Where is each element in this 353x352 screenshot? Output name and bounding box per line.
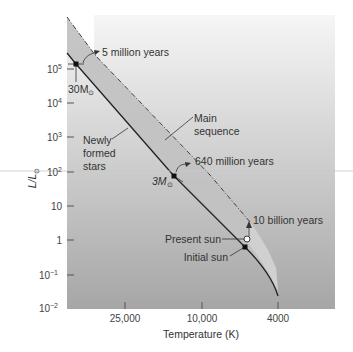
label-formed: formed [83, 147, 116, 159]
y-tick-10: 10 [51, 201, 63, 212]
x-tick-10000: 10,000 [187, 313, 218, 324]
y-tick-1e4: 104 [47, 97, 62, 109]
marker-3-msun [172, 174, 177, 179]
label-initial-sun: Initial sun [184, 251, 229, 263]
y-tick-1e5: 105 [47, 63, 62, 75]
y-tick-1: 1 [56, 235, 62, 246]
label-newly: Newly [83, 134, 112, 146]
marker-30-msun [74, 62, 79, 67]
y-tick-1e-2: 10−2 [39, 302, 58, 314]
label-5-million-years: 5 million years [102, 46, 169, 58]
marker-initial-sun [243, 245, 248, 250]
hr-diagram-chart: 105 104 103 102 10 1 10−1 10−2 L/L⊙ 25,0… [0, 0, 353, 352]
x-axis-title: Temperature (K) [163, 328, 239, 340]
label-sequence: sequence [194, 125, 240, 137]
x-tick-25000: 25,000 [110, 313, 141, 324]
y-tick-labels: 105 104 103 102 10 1 10−1 10−2 [39, 63, 63, 314]
label-stars: stars [83, 160, 106, 172]
label-10-billion-years: 10 billion years [253, 214, 323, 226]
x-tick-4000: 4000 [267, 313, 290, 324]
y-tick-1e3: 103 [47, 131, 62, 143]
y-tick-1e2: 102 [47, 166, 62, 178]
y-tick-1e-1: 10−1 [39, 269, 58, 281]
marker-present-sun [244, 236, 250, 242]
label-present-sun: Present sun [165, 233, 221, 245]
label-640-million-years: 640 million years [195, 155, 274, 167]
label-main: Main [194, 112, 217, 124]
